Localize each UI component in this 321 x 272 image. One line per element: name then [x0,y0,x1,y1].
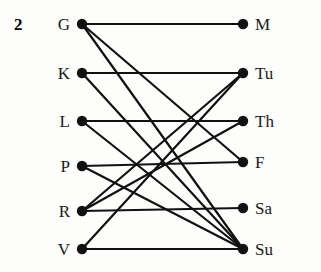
node-label-l: L [60,113,70,130]
node-label-th: Th [255,113,274,130]
graph-node-l[interactable] [77,116,87,126]
node-label-g: G [58,16,70,33]
node-label-k: K [58,65,70,82]
graph-node-g[interactable] [77,19,87,29]
graph-node-p[interactable] [77,161,87,171]
graph-node-sa[interactable] [238,203,248,213]
graph-node-tu[interactable] [238,68,248,78]
node-label-m: M [255,16,270,33]
bipartite-graph-figure: 2 GKLPRVMTuThFSaSu [0,0,321,272]
graph-node-f[interactable] [238,157,248,167]
graph-node-v[interactable] [77,244,87,254]
graph-node-th[interactable] [238,116,248,126]
node-label-v: V [58,241,70,258]
graph-node-m[interactable] [238,19,248,29]
graph-node-r[interactable] [77,206,87,216]
node-label-p: P [61,158,70,175]
graph-edge [82,208,243,211]
node-label-f: F [255,154,264,171]
node-label-su: Su [255,241,273,258]
edge-layer [82,24,243,249]
node-label-sa: Sa [255,200,272,217]
graph-edge [82,24,243,249]
graph-canvas [0,0,321,272]
node-label-tu: Tu [255,65,273,82]
node-label-r: R [59,203,70,220]
graph-node-su[interactable] [238,244,248,254]
graph-node-k[interactable] [77,68,87,78]
